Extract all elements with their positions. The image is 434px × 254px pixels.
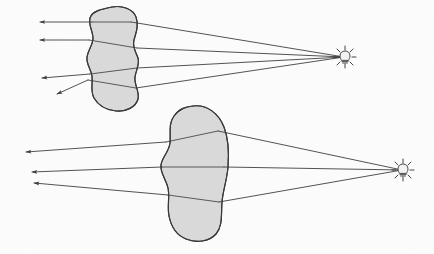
light-bulb-icon [398, 164, 408, 173]
optics-ray-diagram [0, 0, 434, 254]
diagram-canvas [0, 0, 434, 254]
lower-light-source [392, 159, 414, 181]
lower-blob [161, 106, 229, 242]
upper-light-source [334, 46, 356, 68]
light-bulb-icon [340, 51, 350, 60]
